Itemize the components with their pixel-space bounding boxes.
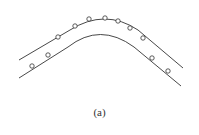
upper-boundary-curve — [19, 19, 183, 68]
point-marker — [128, 26, 132, 30]
sample-points — [30, 16, 170, 73]
point-marker — [166, 69, 170, 73]
figure-caption: (a) — [0, 106, 199, 118]
point-marker — [103, 16, 107, 20]
point-marker — [30, 64, 34, 68]
point-marker — [46, 53, 50, 57]
lower-boundary-curve — [19, 35, 181, 87]
point-marker — [141, 36, 145, 40]
point-marker — [56, 35, 60, 39]
point-marker — [116, 19, 120, 23]
point-marker — [73, 24, 77, 28]
point-marker — [87, 17, 91, 21]
point-marker — [150, 56, 154, 60]
